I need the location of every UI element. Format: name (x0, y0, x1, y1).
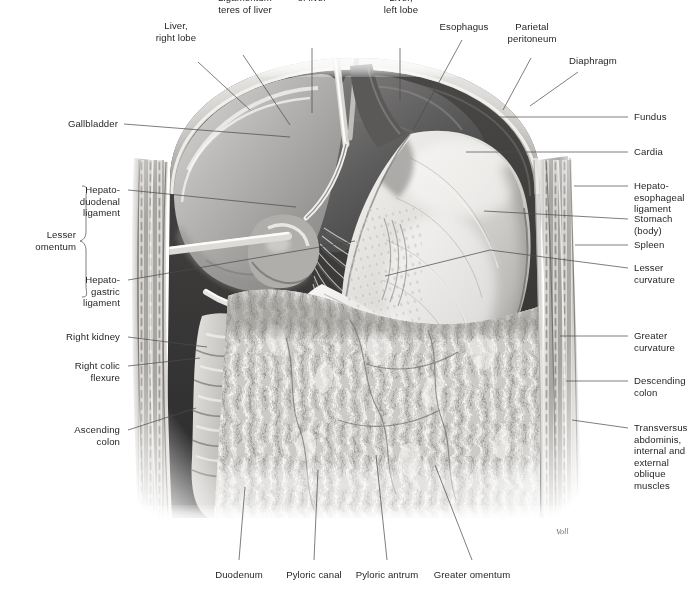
label-descending-colon: Descending colon (634, 375, 693, 398)
label-fundus: Fundus (634, 111, 692, 123)
anatomy-figure: Liver, right lobe Ligamentum teres of li… (0, 0, 693, 598)
anatomy-illustration (110, 48, 600, 548)
label-liver-left-lobe: Liver, left lobe (362, 0, 440, 15)
label-pyloric-antrum: Pyloric antrum (340, 569, 434, 581)
label-gallbladder: Gallbladder (40, 118, 118, 130)
label-ascending-colon: Ascending colon (44, 424, 120, 447)
label-duodenum: Duodenum (199, 569, 279, 581)
label-hepatogastric-ligament: Hepato- gastric ligament (55, 274, 120, 309)
label-spleen: Spleen (634, 239, 692, 251)
label-greater-omentum: Greater omentum (421, 569, 523, 581)
label-right-colic-flexure: Right colic flexure (44, 360, 120, 383)
label-lesser-omentum: Lesser omentum (12, 229, 76, 252)
label-cardia: Cardia (634, 146, 692, 158)
label-hepatoduodenal-ligament: Hepato- duodenal ligament (55, 184, 120, 219)
label-abdominal-wall-muscles: Transversus abdominis, internal and exte… (634, 422, 693, 492)
artist-signature: Voll (556, 527, 569, 537)
label-stomach-body: Stomach (body) (634, 213, 692, 236)
label-parietal-peritoneum: Parietal peritoneum (494, 21, 570, 44)
label-lesser-curvature: Lesser curvature (634, 262, 693, 285)
label-liver-right-lobe: Liver, right lobe (131, 20, 221, 43)
label-right-kidney: Right kidney (44, 331, 120, 343)
label-hepato-esophageal-ligament: Hepato- esophageal ligament (634, 180, 693, 215)
label-diaphragm: Diaphragm (556, 55, 630, 67)
label-falciform-ligament: Falciform ligament of liver (248, 0, 376, 3)
label-greater-curvature: Greater curvature (634, 330, 693, 353)
label-esophagus: Esophagus (428, 21, 500, 33)
